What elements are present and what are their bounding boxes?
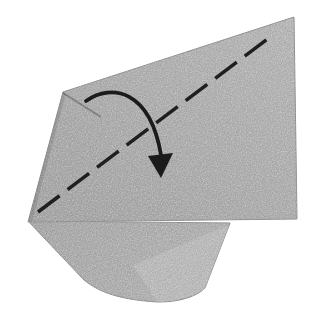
origami-step-figure	[0, 0, 309, 323]
origami-canvas	[0, 0, 309, 323]
